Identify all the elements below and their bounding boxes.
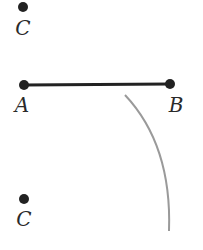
label-b: B <box>168 93 184 117</box>
label-c-top: C <box>15 16 30 40</box>
point-a <box>19 80 29 90</box>
segment-ab <box>24 84 170 85</box>
point-b <box>165 79 175 89</box>
geometry-diagram: C A B C <box>0 0 203 250</box>
point-c-top <box>18 2 28 12</box>
label-c-bottom: C <box>16 207 31 231</box>
label-a: A <box>13 93 29 117</box>
point-c-bottom <box>19 194 29 204</box>
arc <box>125 95 169 231</box>
